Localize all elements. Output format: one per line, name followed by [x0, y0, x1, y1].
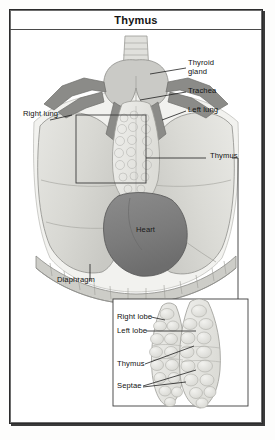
figure-frame: Thymus	[9, 9, 263, 424]
figure-title-bar: Thymus	[10, 10, 262, 30]
page-title: Thymus	[114, 14, 157, 26]
label-septae: Septae	[117, 382, 142, 391]
label-left-lobe: Left lobe	[117, 327, 147, 336]
illustration-canvas: Thyroid gland Trachea Left lung Right lu…	[10, 30, 262, 423]
inset-thymus-illustration	[150, 299, 222, 408]
label-thymus-inset: Thymus	[117, 360, 145, 369]
label-thymus-main: Thymus	[210, 152, 238, 161]
label-thyroid-gland: Thyroid gland	[188, 59, 214, 76]
thorax-group	[34, 36, 239, 304]
label-trachea: Trachea	[188, 87, 216, 96]
label-right-lobe: Right lobe	[117, 313, 152, 322]
label-diaphragm: Diaphragm	[57, 276, 95, 285]
label-left-lung: Left lung	[188, 106, 218, 115]
figure-page: Thymus	[0, 0, 275, 440]
label-right-lung: Right lung	[23, 110, 58, 119]
label-heart: Heart	[136, 226, 155, 235]
